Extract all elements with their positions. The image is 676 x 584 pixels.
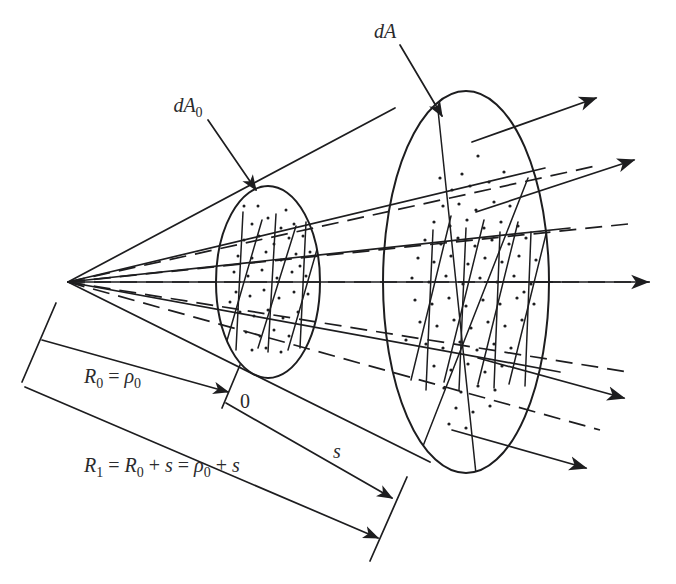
path-length-label: s: [333, 440, 341, 462]
far-streak-lines: [411, 110, 548, 474]
exit-arrow-1: [472, 98, 596, 142]
near-element-contents: [226, 205, 322, 354]
exiting-beam-arrows: [452, 98, 648, 468]
hidden-ray-lower: [68, 282, 600, 430]
hidden-ray-upper: [68, 165, 600, 282]
exit-arrow-4: [478, 358, 624, 398]
exit-arrow-2: [476, 160, 634, 212]
far-element-contents: [404, 110, 548, 474]
origin-tick-label: 0: [240, 390, 250, 412]
near-area-element-label: dA0: [173, 94, 202, 120]
far-particle-field: [404, 154, 537, 429]
scientific-figure: dA0 dA 0 s R0 = ρ0 R1 = R0 + s = ρ0 + s: [0, 0, 676, 584]
right-witness-line: [370, 477, 407, 561]
far-label-leader-line: [400, 45, 442, 116]
near-label-leader-line: [208, 120, 256, 190]
near-distance-label: R0 = ρ0: [83, 365, 141, 391]
origin-witness-tick: [222, 365, 240, 408]
ray-1-upper-edge: [68, 108, 395, 282]
far-label-leader: [400, 45, 442, 116]
hidden-ray-lower-mid: [68, 282, 628, 372]
dimension-system: [22, 303, 407, 561]
figure-canvas: dA0 dA 0 s R0 = ρ0 R1 = R0 + s = ρ0 + s: [0, 0, 676, 584]
far-area-element-label: dA: [374, 20, 397, 42]
near-label-leader: [208, 120, 256, 190]
far-distance-label: R1 = R0 + s = ρ0 + s: [83, 454, 240, 480]
